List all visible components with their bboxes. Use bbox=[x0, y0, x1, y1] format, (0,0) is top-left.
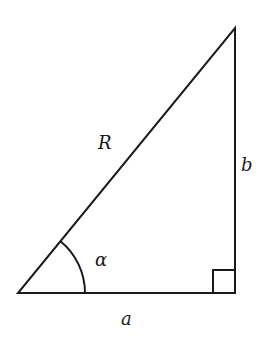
vertical-leg-label: b bbox=[241, 154, 253, 175]
right-angle-marker bbox=[213, 270, 235, 293]
right-triangle-diagram: R b α a bbox=[0, 0, 269, 339]
angle-alpha-arc bbox=[61, 241, 86, 293]
horizontal-leg-label: a bbox=[121, 308, 132, 329]
triangle bbox=[18, 28, 235, 293]
hypotenuse-label: R bbox=[97, 132, 112, 153]
angle-label: α bbox=[95, 249, 107, 270]
